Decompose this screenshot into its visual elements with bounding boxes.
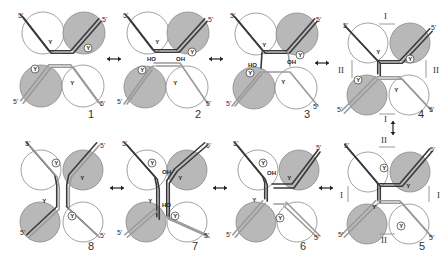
tyrosine-label: Y (86, 45, 90, 51)
protomer-shaded (20, 65, 62, 107)
five-prime-label: 5' (316, 144, 321, 151)
five-prime-label: 5' (123, 12, 128, 19)
tyrosine-label: Y (140, 67, 144, 73)
five-prime-label: 5' (313, 103, 318, 110)
tyrosine-label: Y (278, 215, 282, 221)
bidirectional-arrow-icon (110, 186, 113, 191)
five-prime-label: 5' (344, 142, 349, 149)
five-prime-label: 5' (206, 142, 211, 149)
five-prime-label: 5' (430, 146, 435, 153)
tyrosine-label: Y (376, 49, 380, 55)
five-prime-label: 5' (429, 106, 434, 113)
tyrosine-label: Y (48, 39, 52, 45)
tyrosine-label: Y (372, 204, 376, 210)
five-prime-label: 5' (226, 100, 231, 107)
five-prime-label: 5' (314, 234, 319, 241)
panel-number: 4 (418, 108, 424, 120)
tyrosine-label: Y (54, 160, 58, 166)
tyrosine-label: Y (281, 79, 285, 85)
protomer-shaded (347, 75, 387, 115)
hydroxyl-right-label: OH (162, 169, 171, 175)
panel-6: 5'5'5'5'OHYYYY6 (226, 140, 321, 252)
tyrosine-label: Y (262, 42, 266, 48)
panel-1: 5'5'5'5'YYYY1 (13, 12, 107, 120)
bidirectional-arrow-icon (326, 61, 329, 66)
bidirectional-arrow-icon (220, 57, 223, 62)
tyrosine-label: Y (155, 39, 159, 45)
tyrosine-label: Y (70, 213, 74, 219)
tyrosine-label: Y (33, 66, 37, 72)
tyrosine-label: Y (252, 197, 256, 203)
five-prime-label: 5' (122, 140, 127, 147)
tyrosine-label: Y (150, 160, 154, 166)
protomer-open (277, 202, 317, 242)
axis-label-II: II (433, 65, 439, 75)
five-prime-label: 5' (316, 16, 321, 23)
five-prime-label: 5' (230, 12, 235, 19)
tyrosine-label: Y (173, 213, 177, 219)
bidirectional-arrow-icon (118, 57, 121, 62)
hydroxyl-right-label: OH (267, 170, 276, 176)
dna-strand (261, 52, 262, 68)
panel-number: 1 (88, 108, 94, 120)
tyrosine-label: Y (356, 77, 360, 83)
five-prime-label: 5' (13, 98, 18, 105)
hydroxyl-left-label: HO (147, 56, 156, 62)
tyrosine-label: Y (287, 175, 291, 181)
five-prime-label: 5' (100, 232, 105, 239)
five-prime-label: 5' (343, 22, 348, 29)
tyrosine-label: Y (406, 183, 410, 189)
protomer-open (348, 23, 388, 63)
tyrosine-label: Y (248, 70, 252, 76)
five-prime-label: 5' (117, 98, 122, 105)
bidirectional-arrow-icon (209, 57, 212, 62)
protomer-open (127, 12, 169, 54)
hydroxyl-left-label: HO (162, 202, 171, 208)
panel-number: 2 (195, 108, 201, 120)
bidirectional-arrow-icon (107, 57, 110, 62)
bidirectional-arrow-icon (213, 186, 216, 191)
five-prime-label: 5' (337, 106, 342, 113)
tyrosine-label: Y (190, 49, 194, 55)
bidirectional-arrow-icon (315, 61, 318, 66)
tyrosine-label: Y (394, 87, 398, 93)
tyrosine-label: Y (178, 175, 182, 181)
tyrosine-label: Y (408, 56, 412, 62)
tyrosine-label: Y (42, 198, 46, 204)
panel-8: 5'5'5'5'YYYY8 (20, 140, 105, 252)
axis-label-II: II (381, 135, 387, 145)
five-prime-label: 5' (233, 140, 238, 147)
protomer-open (21, 150, 61, 190)
tyrosine-label: Y (298, 52, 302, 58)
five-prime-label: 5' (100, 100, 105, 107)
protomer-open (167, 202, 207, 242)
protomer-shaded (276, 13, 318, 55)
axis-label-II: II (381, 235, 387, 245)
five-prime-label: 5' (429, 234, 434, 241)
panel-3: 5'5'5'5'HOOHYYYY3 (226, 12, 321, 120)
tyrosine-label: Y (382, 165, 386, 171)
axis-label-I: I (340, 190, 343, 200)
protomer-shaded (63, 150, 103, 190)
five-prime-label: 5' (102, 16, 107, 23)
bidirectional-arrow-icon (391, 121, 396, 124)
panel-2: 5'5'5'5'HOOHYYYY2 (117, 12, 213, 120)
bidirectional-arrow-icon (121, 186, 124, 191)
panel-7: 5'5'5'5'OHHOYYYY7 (117, 140, 211, 252)
protomer-open (127, 150, 167, 190)
protomer-open (235, 13, 277, 55)
panel-5: 5'5'5'5'IIIIIIYYYY5 (338, 135, 440, 252)
five-prime-label: 5' (338, 231, 343, 238)
bidirectional-arrow-icon (330, 186, 333, 191)
hydroxyl-right-label: OH (176, 56, 185, 62)
axis-label-II: II (338, 65, 344, 75)
five-prime-label: 5' (206, 100, 211, 107)
five-prime-label: 5' (20, 229, 25, 236)
bidirectional-arrow-icon (319, 186, 322, 191)
tyrosine-label: Y (399, 223, 403, 229)
tyrosine-label: Y (261, 160, 265, 166)
bidirectional-arrow-icon (391, 132, 396, 135)
five-prime-label: 5' (431, 24, 436, 31)
protomer-open (275, 67, 317, 109)
tyrosine-label: Y (173, 80, 177, 86)
